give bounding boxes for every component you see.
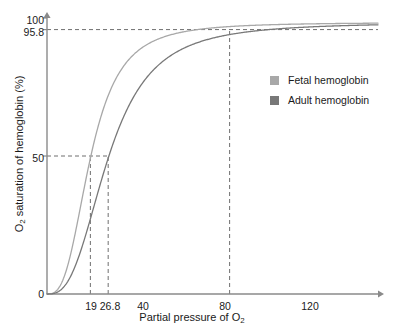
legend-swatch-fetal-icon: [270, 76, 279, 85]
plot-area: [0, 0, 393, 331]
x-axis-title: Partial pressure of O2: [47, 311, 337, 323]
legend-label-adult: Adult hemoglobin: [288, 94, 369, 106]
chart-legend: Fetal hemoglobin Adult hemoglobin: [270, 70, 369, 110]
series-curve-adult: [47, 25, 378, 294]
legend-label-fetal: Fetal hemoglobin: [288, 74, 369, 86]
legend-item-adult: Adult hemoglobin: [270, 90, 369, 110]
oxygen-dissociation-chart: 100 95.8 50 0 19 26.8 40 80 120 O2 satur…: [0, 0, 393, 331]
x-axis-title-sub: 2: [240, 316, 244, 325]
x-tick-label-40: 40: [124, 301, 162, 312]
y-axis-arrow-icon: [43, 12, 50, 18]
x-axis-title-pre: Partial pressure of O: [139, 311, 240, 323]
y-axis-title-pre: O: [13, 224, 25, 233]
y-axis-title: O2 saturation of hemoglobin (%): [13, 49, 25, 259]
x-tick-label-120: 120: [291, 301, 329, 312]
y-tick-label-50: 50: [6, 153, 44, 164]
legend-swatch-adult-icon: [270, 96, 279, 105]
x-axis-arrow-icon: [378, 290, 384, 297]
y-tick-label-0: 0: [6, 289, 44, 300]
legend-item-fetal: Fetal hemoglobin: [270, 70, 369, 90]
y-tick-label-100: 100: [6, 15, 44, 26]
y-axis-title-sub: 2: [18, 219, 27, 223]
y-tick-label-95-8: 95.8: [6, 27, 44, 38]
y-axis-title-post: saturation of hemoglobin (%): [13, 76, 25, 220]
x-tick-label-80: 80: [206, 301, 244, 312]
series-curve-fetal: [47, 23, 378, 294]
